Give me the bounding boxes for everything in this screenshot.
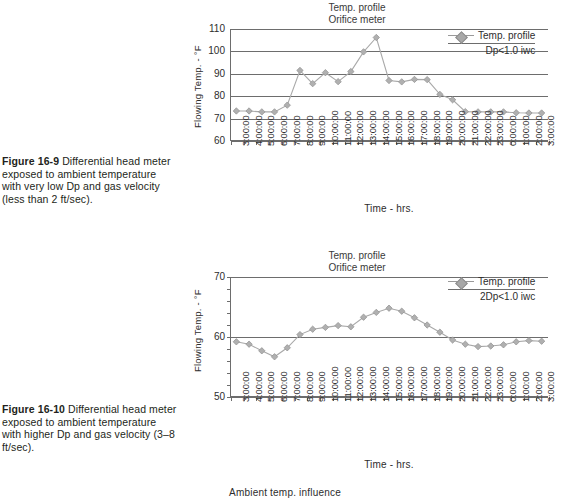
chart-data-point	[424, 322, 430, 328]
chart-x-tick-label: 8:00:00	[304, 371, 315, 402]
chart-x-tick-label: 15:00:00	[393, 366, 404, 402]
chart-data-point	[373, 309, 379, 315]
chart-data-point	[399, 79, 405, 85]
chart-x-tick-label: 9:00:00	[316, 371, 327, 402]
chart-x-tick-label: 4:00:00	[253, 115, 264, 146]
chart-data-point	[386, 77, 392, 83]
legend-marker-icon	[448, 35, 474, 36]
chart-x-tick-label: 3:00:00	[545, 115, 556, 146]
chart-data-point	[246, 341, 252, 347]
legend-series-label: Temp. profile	[478, 276, 535, 287]
chart-1-title: Temp. profile	[146, 2, 568, 14]
chart-x-tick-label: 16:00:00	[405, 366, 416, 402]
chart-data-point	[309, 326, 315, 332]
figure-number-16-9: Figure 16-9	[2, 155, 59, 167]
chart-data-point	[386, 305, 392, 311]
chart-x-tick-label: 10:00:00	[329, 366, 340, 402]
chart-data-point	[322, 324, 328, 330]
chart-x-tick-label: 19:00:00	[443, 110, 454, 146]
chart-data-point	[526, 337, 532, 343]
chart-data-point	[488, 343, 494, 349]
chart-x-tick-label: 23:00:00	[494, 366, 505, 402]
chart-data-point	[437, 329, 443, 335]
figure-number-16-10: Figure 16-10	[2, 403, 65, 415]
chart-2-plot-wrapper: 5060703:00:004:00:005:00:006:00:007:00:0…	[186, 273, 568, 483]
chart-x-tick-label: 21:00:00	[469, 110, 480, 146]
chart-x-tick-label: 22:00:00	[482, 110, 493, 146]
chart-x-tick-label: 3:00:00	[240, 371, 251, 402]
chart-x-tick-label: 2:00:00	[533, 115, 544, 146]
chart-x-tick-label: 10:00:00	[329, 110, 340, 146]
chart-temp-profile-low-dp: Temp. profile Orifice meter Flowing Temp…	[186, 2, 568, 224]
chart-x-tick-label: 16:00:00	[405, 110, 416, 146]
chart-x-tick-label: 2:00:00	[533, 371, 544, 402]
chart-x-tick-label: 7:00:00	[291, 115, 302, 146]
chart-x-tick-label: 13:00:00	[367, 110, 378, 146]
chart-data-point	[246, 108, 252, 114]
chart-data-point	[411, 76, 417, 82]
chart-x-tick-label: 12:00:00	[354, 110, 365, 146]
chart-x-tick-label: 13:00:00	[367, 366, 378, 402]
chart-x-tick-label: 8:00:00	[304, 115, 315, 146]
chart-x-tick-label: 1:00:00	[520, 371, 531, 402]
chart-data-point	[462, 341, 468, 347]
chart-series-line	[236, 308, 541, 357]
chart-x-tick-label: 0:00:00	[507, 115, 518, 146]
chart-x-tick-label: 1:00:00	[520, 115, 531, 146]
chart-x-tick-label: 20:00:00	[456, 110, 467, 146]
legend-series-label: Temp. profile	[478, 30, 535, 41]
chart-x-tick-label: 21:00:00	[469, 366, 480, 402]
chart-1-legend: Temp. profile Dp<1.0 iwc	[448, 30, 535, 56]
chart-x-tick-label: 7:00:00	[291, 371, 302, 402]
chart-x-tick-label: 22:00:00	[482, 366, 493, 402]
legend-condition-label: 2Dp<1.0 iwc	[448, 289, 535, 302]
chart-x-tick-label: 15:00:00	[393, 110, 404, 146]
chart-x-tick-label: 4:00:00	[253, 371, 264, 402]
chart-2-title: Temp. profile	[146, 250, 568, 262]
chart-x-tick-label: 3:00:00	[545, 371, 556, 402]
chart-x-axis-label: Time - hrs.	[230, 203, 548, 214]
chart-x-tick-label: 17:00:00	[418, 366, 429, 402]
chart-data-point	[475, 343, 481, 349]
chart-data-point	[449, 337, 455, 343]
chart-x-tick-label: 14:00:00	[380, 110, 391, 146]
chart-x-tick-label: 12:00:00	[354, 366, 365, 402]
chart-data-point	[538, 338, 544, 344]
chart-x-tick-label: 19:00:00	[443, 366, 454, 402]
legend-condition-label: Dp<1.0 iwc	[448, 43, 535, 56]
figure-page: Figure 16-9 Differential head meter expo…	[0, 0, 570, 502]
legend-marker-icon	[448, 281, 474, 282]
chart-data-point	[233, 339, 239, 345]
chart-data-point	[513, 339, 519, 345]
chart-x-tick-label: 14:00:00	[380, 366, 391, 402]
chart-x-tick-label: 11:00:00	[342, 367, 353, 402]
figure-caption-16-10: Figure 16-10 Differential head meter exp…	[2, 403, 178, 453]
chart-x-tick-label: 9:00:00	[316, 115, 327, 146]
chart-data-point	[271, 109, 277, 115]
chart-x-tick-label: 18:00:00	[431, 110, 442, 146]
chart-x-tick-label: 3:00:00	[240, 115, 251, 146]
chart-data-point	[259, 109, 265, 115]
chart-x-tick-label: 5:00:00	[265, 115, 276, 146]
chart-x-tick-label: 18:00:00	[431, 366, 442, 402]
chart-data-point	[233, 108, 239, 114]
chart-x-tick-label: 0:00:00	[507, 371, 518, 402]
chart-x-tick-label: 17:00:00	[418, 110, 429, 146]
chart-x-tick-label: 20:00:00	[456, 366, 467, 402]
chart-x-tick-label: 6:00:00	[278, 371, 289, 402]
chart-data-point	[411, 315, 417, 321]
chart-data-point	[399, 308, 405, 314]
chart-data-point	[259, 348, 265, 354]
chart-data-point	[335, 322, 341, 328]
chart-temp-profile-high-dp: Temp. profile Orifice meter Flowing Temp…	[186, 250, 568, 490]
figure-caption-16-9: Figure 16-9 Differential head meter expo…	[2, 155, 178, 205]
chart-x-tick-label: 23:00:00	[494, 110, 505, 146]
chart-data-point	[284, 102, 290, 108]
chart-x-tick-label: 11:00:00	[342, 111, 353, 146]
ambient-temp-influence-note: Ambient temp. influence	[0, 487, 570, 498]
chart-x-tick-label: 5:00:00	[265, 371, 276, 402]
chart-x-tick-label: 6:00:00	[278, 115, 289, 146]
chart-data-point	[500, 342, 506, 348]
chart-2-legend: Temp. profile 2Dp<1.0 iwc	[448, 276, 535, 302]
chart-x-axis-label: Time - hrs.	[230, 459, 548, 470]
